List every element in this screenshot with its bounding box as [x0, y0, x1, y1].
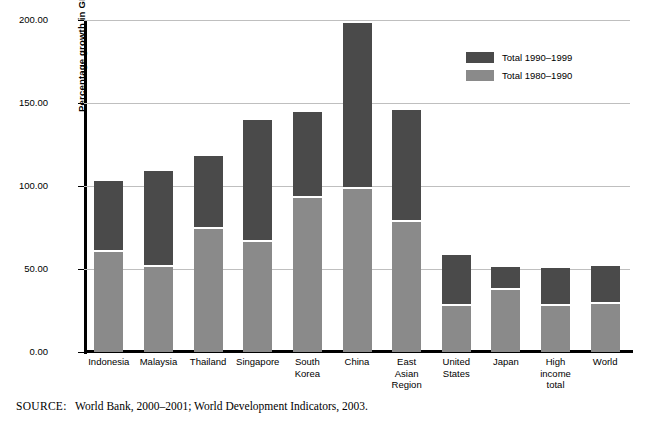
legend-label-1980-1990: Total 1980–1990 — [502, 70, 572, 81]
bar-segment-divider — [591, 302, 620, 304]
x-axis-label-line: Indonesia — [84, 356, 134, 368]
x-axis-label-line: World — [580, 356, 630, 368]
bar-united-states — [442, 255, 471, 352]
x-axis-label-south-korea: SouthKorea — [283, 356, 333, 379]
y-axis-tick — [78, 20, 84, 21]
y-axis-tick — [78, 186, 84, 187]
source-note: SOURCE: World Bank, 2000–2001; World Dev… — [16, 400, 368, 412]
x-axis-label-thailand: Thailand — [183, 356, 233, 368]
bar-segment-divider — [94, 250, 123, 252]
bar-china — [343, 23, 372, 353]
x-axis-label-line: Malaysia — [134, 356, 184, 368]
bar-segment-divider — [144, 265, 173, 267]
bar-high-income-total — [541, 268, 570, 352]
legend-item: Total 1980–1990 — [466, 68, 572, 83]
bar-east-asian-region — [392, 110, 421, 352]
figure-gdp-growth-chart: Percentage growth in GDP 0.0050.00100.00… — [0, 0, 660, 430]
bar-malaysia — [144, 171, 173, 352]
x-axis-label-line: South — [283, 356, 333, 368]
bar-segment-1990-1999 — [343, 23, 372, 189]
bar-world — [591, 266, 620, 352]
bar-segment-divider — [343, 187, 372, 189]
x-axis-label-china: China — [332, 356, 382, 368]
source-note-keyword: SOURCE: — [16, 400, 67, 412]
x-axis-label-east-asian-region: EastAsianRegion — [382, 356, 432, 391]
x-axis-label-line: total — [531, 379, 581, 391]
bar-singapore — [243, 120, 272, 352]
bar-segment-1980-1990 — [591, 304, 620, 352]
bar-segment-divider — [392, 220, 421, 222]
x-axis-label-line: Thailand — [183, 356, 233, 368]
bar-segment-1990-1999 — [243, 120, 272, 242]
x-axis-label-line: Japan — [481, 356, 531, 368]
bar-segment-1980-1990 — [293, 198, 322, 352]
legend-label-1990-1999: Total 1990–1999 — [502, 52, 572, 63]
bar-segment-1990-1999 — [442, 255, 471, 306]
bar-segment-1980-1990 — [343, 189, 372, 353]
x-axis-label-malaysia: Malaysia — [134, 356, 184, 368]
bar-segment-1980-1990 — [541, 306, 570, 352]
legend-swatch-1990-1999 — [466, 52, 494, 63]
legend-swatch-1980-1990 — [466, 70, 494, 81]
bar-segment-1980-1990 — [243, 242, 272, 352]
x-axis-label-line: income — [531, 368, 581, 380]
x-axis-label-united-states: UnitedStates — [431, 356, 481, 379]
bar-indonesia — [94, 181, 123, 352]
bar-segment-1990-1999 — [491, 267, 520, 290]
y-axis-tick — [78, 103, 84, 104]
x-axis-label-high-income-total: Highincometotal — [531, 356, 581, 391]
bar-segment-divider — [442, 304, 471, 306]
y-axis-tick — [78, 269, 84, 270]
y-axis-tick-label: 150.00 — [19, 97, 48, 108]
bar-segment-1990-1999 — [541, 268, 570, 305]
x-axis-label-japan: Japan — [481, 356, 531, 368]
x-axis-label-line: States — [431, 368, 481, 380]
x-axis-label-line: China — [332, 356, 382, 368]
y-axis-tick-label: 50.00 — [24, 263, 48, 274]
bar-segment-1990-1999 — [293, 112, 322, 198]
x-axis-label-line: High — [531, 356, 581, 368]
y-axis-title: Percentage growth in GDP — [76, 0, 87, 112]
x-axis-label-line: Korea — [283, 368, 333, 380]
gridline — [84, 20, 630, 21]
source-note-text: World Bank, 2000–2001; World Development… — [75, 400, 368, 412]
x-axis-label-indonesia: Indonesia — [84, 356, 134, 368]
x-axis-label-singapore: Singapore — [233, 356, 283, 368]
bar-thailand — [194, 156, 223, 352]
bar-segment-divider — [194, 227, 223, 229]
bar-segment-divider — [541, 304, 570, 306]
bar-segment-1980-1990 — [144, 267, 173, 352]
chart-legend: Total 1990–1999 Total 1980–1990 — [466, 50, 572, 86]
x-axis-label-line: East — [382, 356, 432, 368]
y-axis-tick-label: 200.00 — [19, 14, 48, 25]
bar-segment-1990-1999 — [194, 156, 223, 229]
bar-segment-1980-1990 — [392, 222, 421, 352]
x-axis-label-line: Singapore — [233, 356, 283, 368]
y-axis-tick-label: 0.00 — [30, 346, 49, 357]
bar-segment-1990-1999 — [94, 181, 123, 252]
legend-item: Total 1990–1999 — [466, 50, 572, 65]
y-axis-tick-label: 100.00 — [19, 180, 48, 191]
bar-segment-divider — [243, 240, 272, 242]
bar-segment-1980-1990 — [442, 306, 471, 352]
bar-segment-divider — [293, 196, 322, 198]
bar-south-korea — [293, 112, 322, 352]
bar-segment-1990-1999 — [392, 110, 421, 222]
x-axis-label-line: United — [431, 356, 481, 368]
y-axis-tick — [78, 352, 84, 353]
bar-japan — [491, 267, 520, 352]
bar-segment-1980-1990 — [194, 229, 223, 352]
bar-segment-1990-1999 — [144, 171, 173, 266]
x-axis-label-world: World — [580, 356, 630, 368]
x-axis-label-line: Region — [382, 379, 432, 391]
bar-segment-1980-1990 — [94, 252, 123, 352]
bar-segment-1990-1999 — [591, 266, 620, 304]
bar-segment-1980-1990 — [491, 290, 520, 352]
bar-segment-divider — [491, 288, 520, 290]
x-axis-label-line: Asian — [382, 368, 432, 380]
